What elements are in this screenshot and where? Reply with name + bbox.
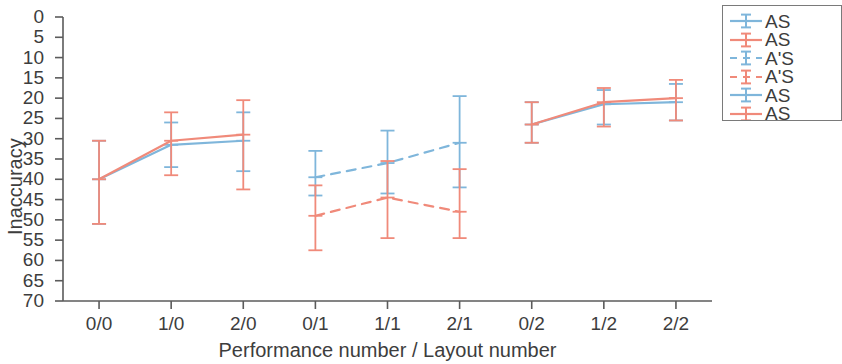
legend-symbol-icon <box>729 69 763 85</box>
legend-item: AS <box>729 105 790 122</box>
legend-item: A'S <box>729 68 794 86</box>
legend: ASASA'SA'SASAS <box>722 5 842 121</box>
legend-item-label: A'S <box>765 49 794 68</box>
legend-item: AS <box>729 31 790 49</box>
error-bar <box>236 100 250 189</box>
legend-item: AS <box>729 12 790 30</box>
legend-item-label: AS <box>765 30 790 49</box>
legend-item-label: AS <box>765 104 790 121</box>
legend-item-label: AS <box>765 12 790 31</box>
error-bar <box>669 80 683 121</box>
error-bar <box>92 141 106 224</box>
legend-item-label: AS <box>765 86 790 105</box>
legend-symbol-icon <box>729 106 763 122</box>
legend-symbol-icon <box>729 13 763 29</box>
error-bar <box>597 88 611 127</box>
legend-item-label: A'S <box>765 67 794 86</box>
x-axis-title: Performance number / Layout number <box>63 339 712 362</box>
error-bar <box>453 169 467 238</box>
legend-symbol-icon <box>729 87 763 103</box>
legend-item: AS <box>729 86 790 104</box>
legend-symbol-icon <box>729 32 763 48</box>
legend-symbol-icon <box>729 50 763 66</box>
legend-item: A'S <box>729 49 794 67</box>
